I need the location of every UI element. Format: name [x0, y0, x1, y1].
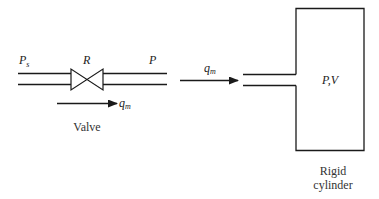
resistance-label: R — [82, 53, 91, 67]
valve-caption: Valve — [73, 120, 100, 134]
downstream-pressure-label: P — [148, 53, 157, 67]
upstream-pipe — [18, 74, 71, 85]
valve-section: Ps R P qm Valve — [18, 53, 167, 134]
cylinder-caption-line2: cylinder — [313, 178, 352, 192]
inlet-pipe — [243, 75, 296, 86]
valve-icon — [71, 69, 103, 90]
flow-label: qm — [119, 96, 131, 111]
inflow-label: qm — [204, 61, 216, 76]
upstream-pressure-label: Ps — [18, 53, 29, 69]
state-label: P,V — [321, 73, 340, 87]
pneumatic-diagram: Ps R P qm Valve qm P,V Rigid cylinder — [0, 0, 379, 199]
cylinder-caption-line1: Rigid — [320, 164, 347, 178]
cylinder-section: qm P,V Rigid cylinder — [180, 9, 364, 193]
downstream-pipe — [103, 74, 167, 85]
